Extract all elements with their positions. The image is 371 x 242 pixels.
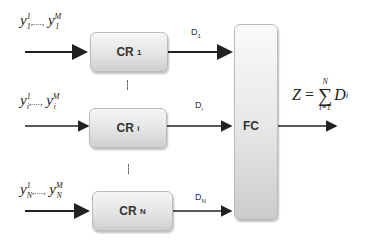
ellipsis-dots-upper [127,80,129,90]
decision-label-1: D1 [191,27,201,39]
input-label-n: y1N,...., yMN [20,181,62,200]
fusion-center-block: FC [234,24,278,220]
decision-label-n: DN [195,192,206,204]
arrow-connectors [0,0,371,242]
input-label-1: y11,...., yM1 [20,12,59,31]
cr-block-i: CR i [89,108,167,148]
input-label-i: y1i,...., yMi [20,92,56,111]
summation: N ∑ i=1 [318,78,332,112]
decision-label-i: Di [195,100,203,112]
cr-block-1: CR 1 [90,32,168,72]
output-equation: Z = N ∑ i=1 Di [292,78,348,112]
cooperative-sensing-diagram: y11,...., yM1 y1i,...., yMi y1N,...., yM… [0,0,371,242]
ellipsis-dots-lower [128,164,130,174]
cr-block-n: CR N [92,191,173,231]
